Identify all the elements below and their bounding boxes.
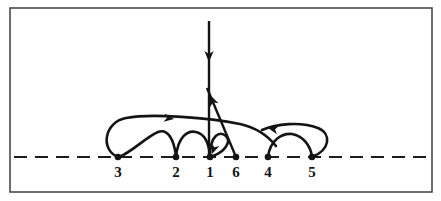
- node-dot-6: [233, 154, 240, 161]
- node-dot-2: [173, 154, 180, 161]
- node-dot-4: [265, 154, 272, 161]
- node-label-1: 1: [206, 164, 214, 180]
- node-label-5: 5: [308, 164, 316, 180]
- node-dot-1: [207, 154, 214, 161]
- figure-root: 321645: [0, 0, 441, 201]
- node-label-2: 2: [172, 164, 180, 180]
- node-label-6: 6: [232, 164, 240, 180]
- node-dot-3: [115, 154, 122, 161]
- node-label-4: 4: [264, 164, 272, 180]
- node-label-3: 3: [114, 164, 122, 180]
- cycle-diagram-canvas: 321645: [0, 0, 441, 201]
- figure-frame: [10, 8, 432, 192]
- node-dot-5: [309, 154, 316, 161]
